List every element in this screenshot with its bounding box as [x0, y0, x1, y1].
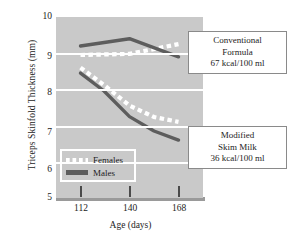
legend-label-females: Females	[93, 155, 123, 165]
legend-swatch-females-icon	[66, 158, 88, 162]
legend-item-males: Males	[66, 166, 115, 179]
callout-bottom-line2: Skim Milk	[191, 142, 284, 154]
callout-bottom-line1: Modified	[191, 130, 284, 142]
x-tick-168: 168	[159, 203, 199, 213]
line-modified-males	[81, 73, 179, 140]
gridline-7	[56, 126, 203, 128]
legend-swatch-males-icon	[66, 170, 88, 175]
x-tick-mark-140	[129, 186, 131, 197]
y-tick-5: 5	[36, 193, 52, 203]
callout-conventional-formula: Conventional Formula 67 kcal/100 ml	[188, 31, 287, 74]
y-tick-9: 9	[36, 52, 52, 62]
x-tick-mark-112	[80, 186, 82, 197]
x-tick-mark-168	[178, 186, 180, 197]
x-axis-label: Age (days)	[56, 220, 205, 230]
legend: Females Males	[60, 149, 136, 182]
y-tick-10: 10	[36, 12, 52, 22]
chart-figure: Triceps Skinfold Thickness (mm) 10 9 8 7…	[0, 0, 289, 243]
callout-top-line1: Conventional	[191, 35, 284, 47]
legend-item-females: Females	[66, 153, 123, 166]
x-tick-140: 140	[110, 203, 150, 213]
y-tick-7: 7	[36, 128, 52, 138]
callout-bottom-line3: 36 kcal/100 ml	[191, 153, 284, 165]
legend-label-males: Males	[93, 168, 115, 178]
callout-top-line3: 67 kcal/100 ml	[191, 58, 284, 70]
gridline-8	[56, 89, 203, 91]
callout-modified-skim-milk: Modified Skim Milk 36 kcal/100 ml	[188, 126, 287, 169]
callout-top-line2: Formula	[191, 47, 284, 59]
y-tick-8: 8	[36, 88, 52, 98]
line-modified-females	[81, 68, 179, 122]
y-axis-tick-labels: 10 9 8 7 6 5	[30, 0, 52, 243]
x-tick-112: 112	[61, 203, 101, 213]
y-tick-6: 6	[36, 165, 52, 175]
gridline-9	[56, 53, 203, 55]
